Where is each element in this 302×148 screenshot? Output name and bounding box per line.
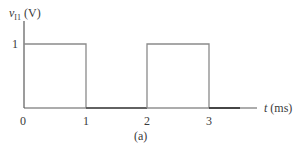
figure-caption: (a)	[134, 130, 147, 142]
y-axis-subscript: I1	[14, 13, 21, 22]
x-tick-1: 1	[83, 115, 89, 127]
x-tick-3: 3	[206, 115, 212, 127]
pulse-2	[147, 44, 209, 108]
y-axis-unit: (V)	[21, 6, 41, 20]
pulse-1	[24, 44, 86, 108]
y-axis-label: vI1 (V)	[9, 7, 41, 24]
x-tick-0: 0	[20, 115, 26, 127]
y-tick-1: 1	[12, 38, 18, 50]
x-axis-label: t (ms)	[264, 102, 292, 114]
waveform-plot	[0, 0, 302, 148]
x-axis-unit: (ms)	[267, 101, 292, 115]
x-tick-2: 2	[144, 115, 150, 127]
